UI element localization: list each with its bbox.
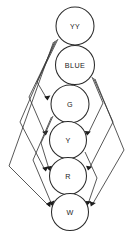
edge-yy-to-y: [29, 40, 57, 134]
edge-blue-to-w: [92, 79, 124, 205]
edge-yy-to-r: [20, 41, 55, 170]
node-blue[interactable]: BLUE: [56, 46, 95, 85]
node-yy-circle[interactable]: [56, 7, 94, 45]
node-r[interactable]: R: [50, 158, 87, 195]
node-w[interactable]: W: [52, 194, 89, 231]
diagram-canvas: YY BLUE G Y R W: [0, 0, 137, 243]
graph-svg: YY BLUE G Y R W: [0, 0, 137, 243]
edge-blue-to-y: [88, 77, 103, 134]
node-w-circle[interactable]: [52, 194, 89, 231]
node-r-circle[interactable]: [50, 158, 87, 195]
edge-blue-to-r: [89, 78, 113, 169]
node-yy[interactable]: YY: [56, 7, 94, 45]
edge-yy-to-w: [9, 42, 54, 206]
edge-yy-to-g: [37, 39, 58, 99]
node-g[interactable]: G: [51, 85, 89, 123]
node-y-circle[interactable]: [50, 122, 87, 159]
edge-g-to-w: [33, 117, 52, 205]
arrowhead-blue-to-w: [90, 201, 96, 206]
node-y[interactable]: Y: [50, 122, 87, 159]
node-g-circle[interactable]: [51, 85, 89, 123]
node-blue-circle[interactable]: [56, 46, 95, 85]
